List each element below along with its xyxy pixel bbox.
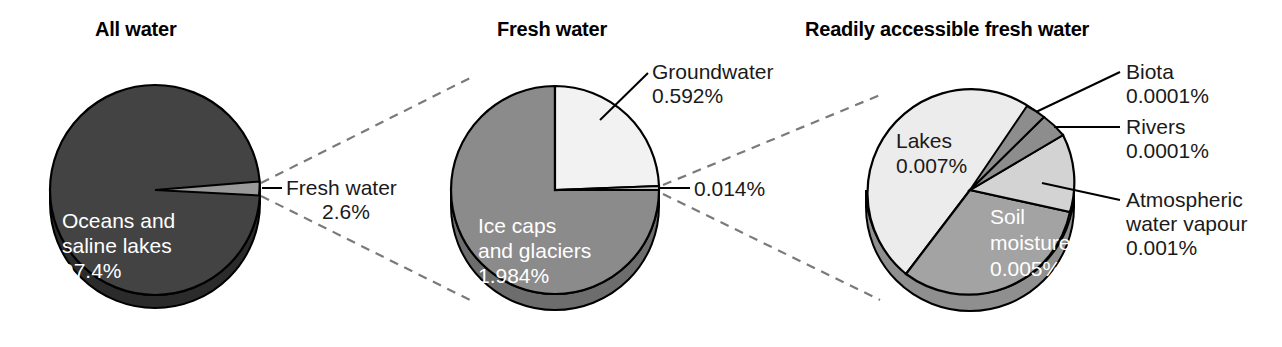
label-sliver-value: 0.014% (694, 177, 765, 201)
label-fresh-water-value: 2.6% (286, 200, 406, 224)
leader-biota (1036, 72, 1120, 112)
water-distribution-figure: All water Fresh water Readily accessible… (0, 0, 1282, 347)
label-atmospheric-line1: Atmospheric (1126, 188, 1243, 212)
label-fresh-water-name: Fresh water (286, 176, 397, 200)
label-biota-value: 0.0001% (1126, 84, 1209, 108)
label-biota-name: Biota (1126, 60, 1174, 84)
label-ice-caps-line2: and glaciers (478, 238, 591, 263)
label-atmospheric-value: 0.001% (1126, 236, 1197, 260)
label-rivers-name: Rivers (1126, 115, 1186, 139)
label-lakes-value: 0.007% (896, 153, 967, 178)
label-groundwater-name: Groundwater (652, 60, 773, 84)
chart-title-all-water: All water (95, 18, 177, 41)
pie2-slice-groundwater (555, 86, 659, 190)
label-lakes-name: Lakes (896, 128, 952, 153)
label-ice-caps-line1: Ice caps (478, 213, 556, 238)
label-oceans-value: 97.4% (62, 258, 122, 283)
label-atmospheric-line2: water vapour (1126, 212, 1247, 236)
label-oceans-line1: Oceans and (62, 208, 175, 233)
pie-charts-svg (0, 0, 1282, 347)
label-ice-caps-value: 1.984% (478, 263, 549, 288)
label-soil-moisture-line1: Soil (990, 204, 1025, 229)
label-groundwater-value: 0.592% (652, 84, 723, 108)
label-oceans-line2: saline lakes (62, 233, 172, 258)
label-soil-moisture-value: 0.005% (990, 256, 1061, 281)
chart-title-fresh-water: Fresh water (497, 18, 607, 41)
label-soil-moisture-line2: moisture (990, 230, 1071, 255)
chart-title-readily-accessible: Readily accessible fresh water (805, 18, 1089, 41)
label-rivers-value: 0.0001% (1126, 139, 1209, 163)
